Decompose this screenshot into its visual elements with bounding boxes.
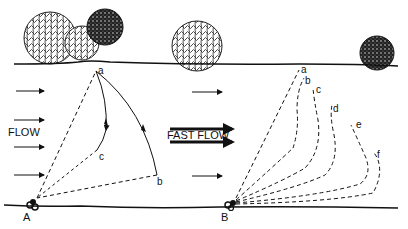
right-point-e: e [356, 119, 362, 130]
right-point-f: f [377, 149, 380, 160]
anchor-a-label: A [23, 211, 31, 223]
river-flow-diagram: FLOW A a b c FAST FLOW B [0, 0, 408, 229]
right-point-b: b [305, 75, 311, 86]
anchor-b-label: B [221, 211, 228, 223]
left-point-a: a [98, 65, 104, 76]
anchor-a [27, 199, 38, 210]
left-point-c: c [99, 151, 104, 162]
left-point-b: b [157, 176, 163, 187]
left-sweep [37, 71, 157, 198]
right-point-c: c [316, 84, 321, 95]
right-point-a: a [301, 64, 307, 75]
dark-tree-icon [87, 9, 123, 45]
bottom-riverbank [4, 205, 398, 208]
anchor-b [225, 200, 236, 211]
right-sweep [236, 70, 380, 204]
right-point-d: d [333, 103, 339, 114]
fast-flow-label: FAST FLOW [167, 129, 230, 141]
flow-label: FLOW [8, 126, 40, 138]
